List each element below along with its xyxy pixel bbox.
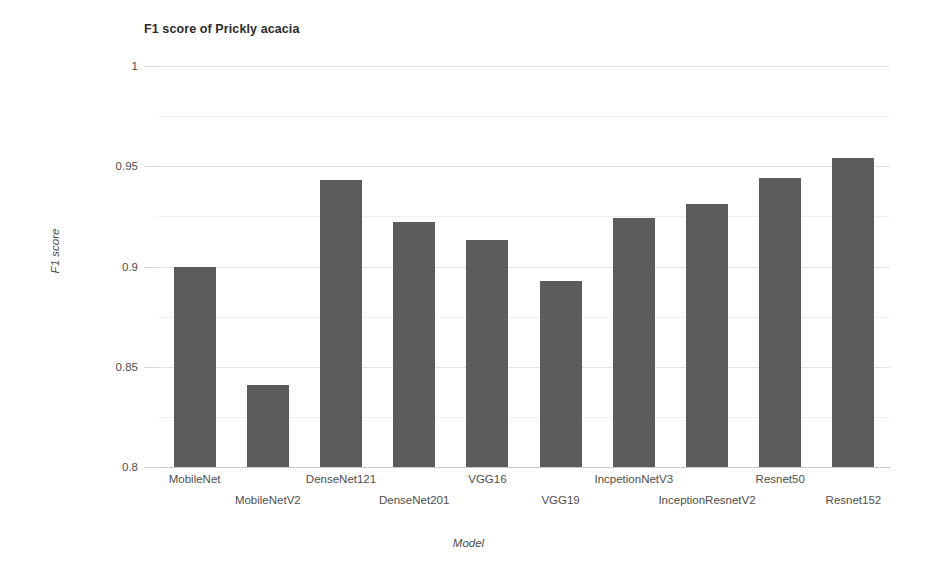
gridline-major	[158, 66, 890, 67]
x-axis-tick-label: VGG19	[541, 494, 579, 506]
chart-title: F1 score of Prickly acacia	[144, 22, 299, 36]
y-axis-title: F1 score	[49, 191, 61, 311]
x-axis-tick-label: InceptionResnetV2	[658, 494, 755, 506]
bar[interactable]	[247, 385, 289, 467]
x-axis-tick-label: Resnet152	[826, 494, 882, 506]
x-axis-tick-label: Resnet50	[756, 473, 805, 485]
x-axis-tick-label: DenseNet121	[306, 473, 376, 485]
y-axis-tick	[144, 267, 158, 268]
bar[interactable]	[540, 281, 582, 468]
x-axis-tick-label: IncpetionNetV3	[594, 473, 673, 485]
y-axis-tick	[144, 367, 158, 368]
bar[interactable]	[320, 180, 362, 467]
x-axis-tick-label: VGG16	[468, 473, 506, 485]
y-axis-tick-label: 0.8	[122, 461, 138, 473]
x-axis-tick-label: DenseNet201	[379, 494, 449, 506]
bar[interactable]	[686, 204, 728, 467]
gridline-minor	[158, 116, 890, 117]
bar[interactable]	[174, 267, 216, 468]
x-axis-title: Model	[0, 537, 937, 549]
bar[interactable]	[832, 158, 874, 467]
bar[interactable]	[759, 178, 801, 467]
gridline-major	[158, 467, 890, 468]
y-axis-tick-label: 0.95	[116, 160, 138, 172]
y-axis-tick	[144, 166, 158, 167]
bar[interactable]	[393, 222, 435, 467]
bar-chart-figure: F1 score of Prickly acacia F1 score 0.80…	[0, 0, 937, 574]
gridline-major	[158, 166, 890, 167]
y-axis-tick-label: 1	[132, 60, 138, 72]
y-axis-tick	[144, 467, 158, 468]
bar[interactable]	[613, 218, 655, 467]
plot-area: 0.80.850.90.951	[158, 66, 890, 467]
y-axis-tick-label: 0.9	[122, 261, 138, 273]
bar[interactable]	[466, 240, 508, 467]
x-axis-tick-label: MobileNetV2	[235, 494, 301, 506]
y-axis-tick-label: 0.85	[116, 361, 138, 373]
x-axis-tick-label: MobileNet	[169, 473, 221, 485]
y-axis-tick	[144, 66, 158, 67]
